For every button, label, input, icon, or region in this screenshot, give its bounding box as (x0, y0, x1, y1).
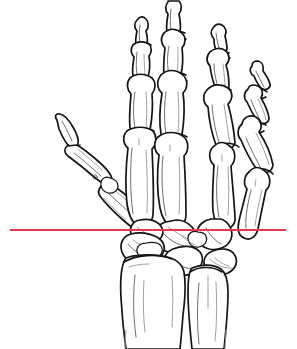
index-proximal-phalanx (127, 74, 155, 134)
middle-proximal-phalanx (158, 71, 187, 141)
hand-skeleton-drawing (0, 0, 297, 349)
forearm-bones (121, 255, 228, 349)
radius (121, 255, 185, 349)
pisiform (188, 231, 207, 247)
ring-metacarpal (210, 143, 235, 229)
hand-skeleton-figure (0, 0, 297, 349)
index-metacarpal (124, 127, 156, 225)
